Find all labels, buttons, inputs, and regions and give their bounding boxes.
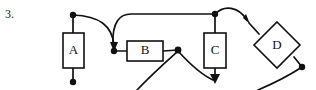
edge-d-upper-left-stub bbox=[249, 23, 259, 34]
block-diagram: A B C D 3. bbox=[0, 0, 316, 90]
dot-right-of-b bbox=[175, 47, 182, 54]
edge-c-top-to-d bbox=[215, 8, 247, 20]
item-number-label: 3. bbox=[5, 7, 14, 21]
block-a-label: A bbox=[69, 42, 79, 57]
block-d[interactable]: D bbox=[254, 22, 300, 68]
block-b-label: B bbox=[141, 42, 150, 57]
block-b[interactable]: B bbox=[127, 41, 163, 61]
dot-left-of-b bbox=[111, 48, 117, 54]
edge-lower-right-dot-curve bbox=[258, 67, 302, 90]
block-c-label: C bbox=[211, 42, 220, 57]
edge-top-rail-to-b-left bbox=[113, 14, 215, 44]
block-a[interactable]: A bbox=[63, 33, 84, 68]
dot-above-a bbox=[70, 12, 76, 18]
dot-above-c bbox=[212, 11, 218, 17]
block-c[interactable]: C bbox=[204, 33, 226, 68]
dot-below-a bbox=[70, 79, 76, 85]
block-d-label: D bbox=[272, 37, 281, 52]
figure-canvas: A B C D 3. bbox=[0, 0, 316, 90]
dot-lower-right-of-d bbox=[299, 64, 305, 70]
